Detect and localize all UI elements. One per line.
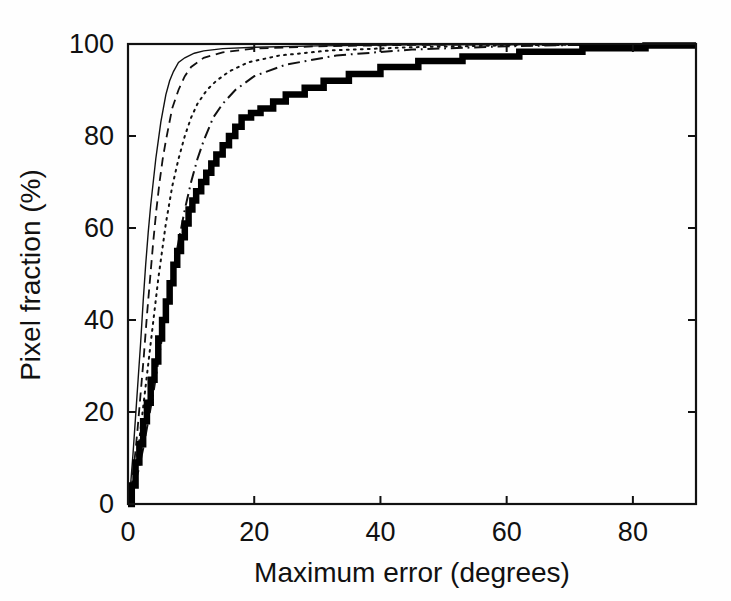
x-tick-label-60: 60 — [492, 517, 522, 547]
x-tick-label-40: 40 — [365, 517, 395, 547]
y-tick-label-60: 60 — [84, 213, 114, 243]
cdf-plot: 020406080020406080100 Maximum error (deg… — [0, 0, 731, 601]
chart-figure: 020406080020406080100 Maximum error (deg… — [0, 0, 731, 601]
x-tick-label-0: 0 — [120, 517, 135, 547]
y-axis-title: Pixel fraction (%) — [15, 169, 46, 381]
y-tick-label-40: 40 — [84, 305, 114, 335]
y-tick-label-100: 100 — [69, 29, 114, 59]
x-tick-label-20: 20 — [239, 517, 269, 547]
x-axis-title: Maximum error (degrees) — [254, 557, 570, 588]
y-tick-label-0: 0 — [99, 489, 114, 519]
y-tick-label-20: 20 — [84, 397, 114, 427]
y-tick-label-80: 80 — [84, 121, 114, 151]
x-tick-label-80: 80 — [618, 517, 648, 547]
